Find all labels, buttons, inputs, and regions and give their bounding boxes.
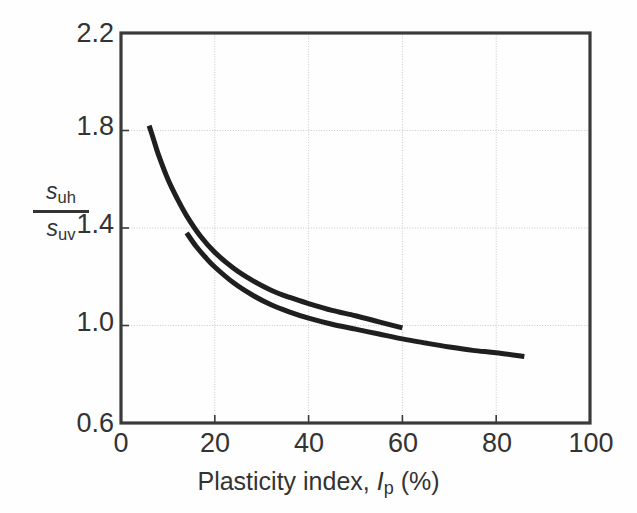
gridlines — [121, 33, 590, 423]
plot-area — [0, 0, 637, 513]
data-curves — [149, 126, 524, 357]
chart-figure: 2.2 1.8 1.4 1.0 0.6 suh suv 0 20 40 60 8… — [0, 0, 637, 513]
